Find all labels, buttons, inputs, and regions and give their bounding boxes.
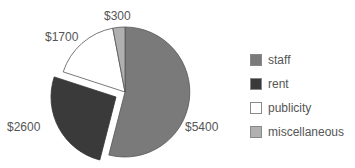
legend-item-rent: rent — [250, 72, 344, 96]
legend-label: staff — [268, 53, 290, 67]
legend-label: miscellaneous — [268, 125, 344, 139]
label-staff: $5400 — [185, 120, 218, 134]
slice-rent — [51, 77, 116, 160]
label-rent: $2600 — [7, 120, 40, 134]
label-miscellaneous: $300 — [104, 9, 131, 23]
swatch-publicity — [250, 102, 262, 114]
swatch-rent — [250, 78, 262, 90]
legend: staff rent publicity miscellaneous — [250, 48, 344, 144]
legend-item-staff: staff — [250, 48, 344, 72]
legend-item-publicity: publicity — [250, 96, 344, 120]
label-publicity: $1700 — [45, 30, 78, 44]
legend-label: rent — [268, 77, 289, 91]
legend-item-miscellaneous: miscellaneous — [250, 120, 344, 144]
swatch-miscellaneous — [250, 126, 262, 138]
swatch-staff — [250, 54, 262, 66]
legend-label: publicity — [268, 101, 311, 115]
